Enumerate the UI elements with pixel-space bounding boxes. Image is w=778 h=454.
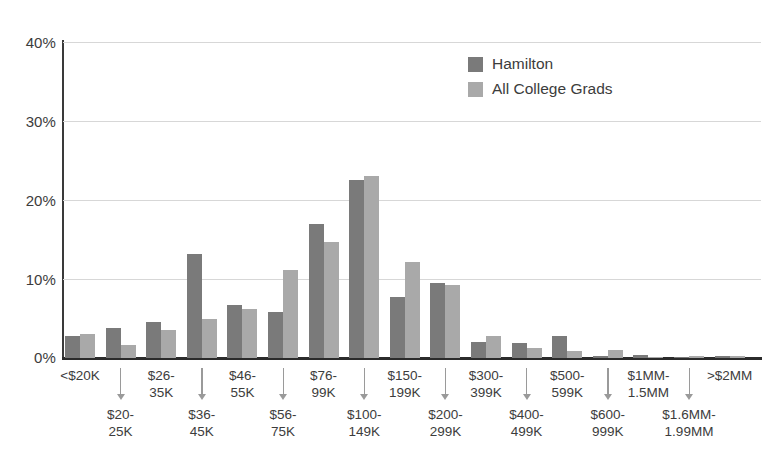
label-connector-arrow-icon	[279, 368, 288, 402]
bar-chart: 40% 30% 20% 10% 0% Hamilton All College …	[0, 0, 778, 454]
x-axis-label-top: $26-35K	[118, 368, 204, 401]
label-connector-arrow-icon	[197, 368, 206, 402]
bar	[486, 336, 501, 358]
bar	[405, 262, 420, 358]
label-connector-arrow-icon	[441, 368, 450, 402]
x-axis-label-bottom: $600-999K	[565, 407, 651, 440]
bar	[268, 312, 283, 358]
x-axis-labels: <$20K$26-35K$46-55K$76-99K$150-199K$300-…	[0, 362, 778, 454]
x-axis-label-bottom: $100-149K	[321, 407, 407, 440]
bar	[648, 357, 663, 358]
x-axis-label-bottom: $200-299K	[402, 407, 488, 440]
bar	[349, 180, 364, 358]
x-axis-label-top: $1MM-1.5MM	[605, 368, 691, 401]
bar	[471, 342, 486, 358]
bar	[552, 336, 567, 358]
x-axis-label-top: $300-399K	[443, 368, 529, 401]
bar	[121, 345, 136, 358]
legend: Hamilton All College Grads	[468, 54, 613, 99]
bar	[674, 357, 689, 358]
bar	[364, 176, 379, 358]
y-tick-label-40: 40%	[4, 34, 56, 51]
bar	[430, 283, 445, 358]
x-axis-label-top: $150-199K	[362, 368, 448, 401]
label-connector-arrow-icon	[685, 368, 694, 402]
bar	[283, 270, 298, 358]
x-axis-label-top: $76-99K	[281, 368, 367, 401]
bar-groups	[63, 42, 761, 358]
x-axis-label-bottom: $36-45K	[159, 407, 245, 440]
bar	[161, 330, 176, 358]
x-axis-label-bottom: $56-75K	[240, 407, 326, 440]
legend-swatch-icon-hamilton	[468, 57, 483, 72]
x-axis-label-bottom: $400-499K	[484, 407, 570, 440]
legend-swatch-icon-all-college-grads	[468, 82, 483, 97]
x-axis-label-top: >$2MM	[687, 368, 773, 385]
legend-item-all-college-grads: All College Grads	[468, 79, 613, 99]
bar	[512, 343, 527, 358]
bar	[324, 242, 339, 358]
bar	[146, 322, 161, 358]
bar	[227, 305, 242, 358]
label-connector-arrow-icon	[360, 368, 369, 402]
y-tick-label-20: 20%	[4, 192, 56, 209]
bar	[106, 328, 121, 358]
x-axis-label-top: $46-55K	[199, 368, 285, 401]
bar	[715, 356, 730, 358]
bar	[242, 309, 257, 358]
label-connector-arrow-icon	[603, 368, 612, 402]
bar	[633, 355, 648, 358]
x-axis-label-bottom: $20-25K	[78, 407, 164, 440]
bar	[390, 297, 405, 358]
bar	[187, 254, 202, 358]
bar	[608, 350, 623, 358]
x-axis-label-bottom: $1.6MM-1.99MM	[646, 407, 732, 440]
bar	[80, 334, 95, 358]
bar	[689, 356, 704, 358]
y-tick-label-10: 10%	[4, 271, 56, 288]
legend-label-all-college-grads: All College Grads	[492, 80, 613, 98]
x-axis-label-top: $500-599K	[524, 368, 610, 401]
x-axis-label-top: <$20K	[37, 368, 123, 385]
bar	[202, 319, 217, 359]
bar	[527, 348, 542, 358]
y-tick-label-30: 30%	[4, 113, 56, 130]
bar	[593, 356, 608, 358]
legend-label-hamilton: Hamilton	[492, 55, 553, 73]
bar	[445, 285, 460, 358]
bar	[730, 356, 745, 358]
bar	[65, 336, 80, 358]
legend-item-hamilton: Hamilton	[468, 54, 613, 74]
label-connector-arrow-icon	[116, 368, 125, 402]
label-connector-arrow-icon	[522, 368, 531, 402]
bar	[567, 351, 582, 358]
plot-area	[63, 42, 761, 358]
bar	[309, 224, 324, 358]
